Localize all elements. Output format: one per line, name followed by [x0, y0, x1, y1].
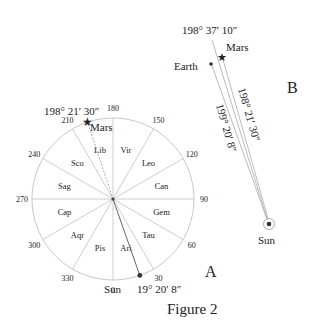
panel-a-label: A [205, 263, 217, 280]
degree-tick-60: 60 [188, 241, 196, 250]
mars-line-angle-label: 198° 21′ 30″ [236, 86, 263, 143]
degree-tick-30: 30 [155, 274, 163, 283]
line-earth-sun [211, 63, 268, 222]
sun-label: Sun [104, 283, 122, 295]
degree-tick-180: 180 [107, 104, 119, 113]
sun-longitude-label: 19° 20′ 8″ [137, 283, 181, 295]
degree-tick-210: 210 [62, 116, 74, 125]
degree-tick-120: 120 [186, 150, 198, 159]
earth-line-angle-label: 199° 20′ 8″ [214, 102, 239, 153]
degree-tick-150: 150 [153, 116, 165, 125]
degree-tick-240: 240 [28, 150, 40, 159]
sign-label-pis: Pis [95, 243, 105, 253]
sign-label-leo: Leo [142, 158, 155, 168]
panel-b-label: B [287, 79, 298, 96]
earth-dot [209, 62, 213, 66]
sun-label-b: Sun [258, 234, 276, 246]
sign-label-cap: Cap [58, 207, 72, 217]
degree-tick-270: 270 [16, 195, 28, 204]
sign-label-tau: Tau [142, 230, 155, 240]
degree-tick-90: 90 [200, 195, 208, 204]
mars-label: Mars [90, 121, 113, 133]
sign-label-lib: Lib [94, 145, 106, 155]
sun-direction-line [113, 199, 140, 275]
mars-label-b: Mars [226, 41, 249, 53]
earth-label: Earth [174, 60, 198, 72]
degree-tick-330: 330 [62, 274, 74, 283]
mars-longitude-label: 198° 21′ 30″ [44, 105, 99, 117]
sign-label-sco: Sco [71, 158, 84, 168]
sign-label-gem: Gem [153, 207, 170, 217]
panel-a: 0306090120150180210240270300330 AriTauGe… [16, 104, 217, 295]
sun-position-dot [137, 273, 142, 278]
sun-dot-b [267, 222, 272, 227]
center-point [111, 197, 114, 200]
sign-label-sag: Sag [58, 181, 72, 191]
figure-caption: Figure 2 [167, 301, 217, 317]
line-top-label: 198° 37′ 10″ [182, 24, 237, 36]
sign-label-can: Can [155, 181, 169, 191]
figure-canvas: 0306090120150180210240270300330 AriTauGe… [0, 0, 313, 323]
degree-tick-300: 300 [28, 241, 40, 250]
sign-label-ari: Ari [120, 243, 132, 253]
sign-label-vir: Vir [121, 145, 132, 155]
sign-label-aqr: Aqr [71, 230, 84, 240]
